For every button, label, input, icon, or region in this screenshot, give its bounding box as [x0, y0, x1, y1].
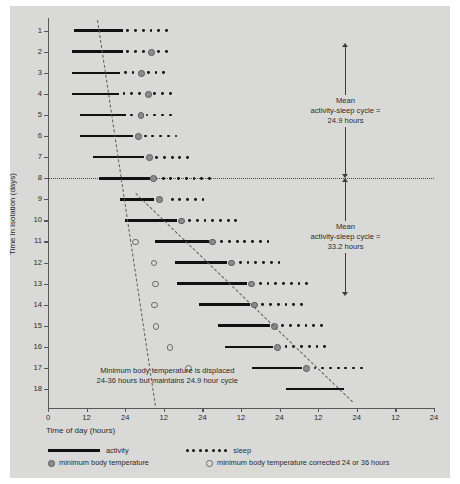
sleep-dot-day-11-5	[251, 240, 254, 243]
sleep-dot-day-8-7	[208, 177, 211, 180]
x-tick-3	[164, 408, 165, 412]
activity-bar-day-8	[99, 177, 150, 180]
x-tick-8	[357, 408, 358, 412]
activity-bar-day-11	[155, 240, 209, 243]
mean-cycle-upper-line1: Mean	[336, 96, 355, 105]
y-tick-label-13: 13	[20, 280, 42, 288]
y-tick-label-4: 4	[20, 90, 42, 98]
sleep-dot-day-8-2	[169, 177, 172, 180]
y-tick-11	[44, 241, 48, 242]
sleep-dot-day-14-1	[261, 303, 264, 306]
legend-item-activity: activity	[48, 446, 129, 455]
sleep-dot-day-4-5	[161, 92, 164, 95]
legend-item-mbt: minimum body temperature	[48, 458, 149, 467]
sleep-dot-day-4-2	[138, 92, 141, 95]
sleep-dot-day-6-5	[175, 135, 178, 138]
sleep-dot-day-3-1	[132, 71, 135, 74]
sleep-dot-day-9-5	[202, 198, 205, 201]
sleep-dot-day-14-5	[292, 303, 295, 306]
sleep-dot-day-9-2	[178, 198, 181, 201]
sleep-dot-day-10-2	[196, 219, 199, 222]
sleep-dot-day-2-4	[157, 50, 160, 53]
sleep-dot-day-7-2	[163, 156, 166, 159]
y-tick-label-8: 8	[20, 174, 42, 182]
sleep-dot-day-1-4	[157, 29, 160, 32]
activity-bar-day-3	[72, 72, 121, 75]
sleep-dot-day-8-4	[185, 177, 188, 180]
activity-bar-day-12	[175, 261, 227, 264]
legend-sleep-dot-1	[192, 449, 195, 452]
y-tick-label-6: 6	[20, 132, 42, 140]
x-tick-label-10: 24	[422, 414, 446, 422]
sleep-dot-day-14-6	[300, 303, 303, 306]
activity-bar-day-14	[199, 303, 250, 306]
sleep-dot-day-17-7	[360, 367, 363, 370]
x-tick-label-4: 24	[190, 414, 214, 422]
mbt-marker-day-8	[150, 175, 157, 182]
x-tick-2	[125, 408, 126, 412]
mbt-filled-circle-swatch	[48, 460, 56, 465]
x-tick-7	[318, 408, 319, 412]
sleep-dot-day-11-3	[236, 240, 239, 243]
mean-cycle-lower-line2: activity-sleep cycle =	[311, 232, 381, 241]
mean-cycle-lower-shaft-1	[345, 253, 346, 292]
x-tick-label-2: 24	[113, 414, 137, 422]
x-tick-4	[202, 408, 203, 412]
mean-cycle-lower-text: Meanactivity-sleep cycle =33.2 hours	[286, 222, 406, 252]
sleep-dot-day-17-4	[337, 367, 340, 370]
sleep-dot-day-17-5	[344, 367, 347, 370]
y-axis-line	[48, 18, 49, 408]
y-tick-label-12: 12	[20, 259, 42, 267]
mbt-marker-day-2	[148, 49, 155, 56]
legend-sleep-dot-5	[218, 449, 221, 452]
y-tick-15	[44, 326, 48, 327]
y-tick-label-5: 5	[20, 111, 42, 119]
sleep-dot-day-8-1	[162, 177, 165, 180]
mbt-marker-day-11	[209, 239, 216, 246]
sleep-dot-day-11-1	[220, 240, 223, 243]
mbt-marker-day-6	[135, 133, 142, 140]
activity-bar-day-6	[80, 135, 132, 138]
sleep-dot-day-13-6	[298, 282, 301, 285]
sleep-dot-day-13-3	[274, 282, 277, 285]
mean-cycle-upper-shaft-0	[345, 47, 346, 94]
sleep-dot-day-17-3	[329, 367, 332, 370]
activity-bar-day-2	[72, 50, 123, 53]
sleep-dot-day-8-3	[177, 177, 180, 180]
legend-sleep-dot-3	[205, 449, 208, 452]
y-tick-18	[44, 389, 48, 390]
x-tick-label-9: 12	[383, 414, 407, 422]
sleep-dot-day-5-0	[130, 114, 133, 117]
temperature-note-line1: Minimum body temperature is displaced	[100, 366, 234, 375]
y-tick-label-16: 16	[20, 343, 42, 351]
y-tick-13	[44, 284, 48, 285]
activity-line-swatch	[48, 449, 100, 452]
sleep-dot-day-17-6	[352, 367, 355, 370]
sleep-dot-day-16-6	[323, 345, 326, 348]
y-axis-title: Time in isolation (days)	[8, 173, 17, 255]
sleep-dot-day-11-2	[228, 240, 231, 243]
sleep-dot-day-6-3	[159, 135, 162, 138]
sleep-dot-day-9-3	[186, 198, 189, 201]
x-tick-label-7: 12	[306, 414, 330, 422]
mbt-corrected-marker-day-13	[152, 281, 159, 288]
sleep-dot-day-14-2	[269, 303, 272, 306]
sleep-dot-day-16-4	[308, 345, 311, 348]
y-tick-label-15: 15	[20, 322, 42, 330]
sleep-dot-day-10-3	[204, 219, 207, 222]
x-axis-title: Time of day (hours)	[46, 426, 115, 435]
sleep-dots-swatch	[186, 449, 227, 452]
sleep-dot-day-5-4	[161, 114, 164, 117]
legend-sleep-dot-4	[212, 449, 215, 452]
temperature-note: Minimum body temperature is displaced24-…	[67, 366, 267, 386]
mbt-marker-day-10	[178, 218, 185, 225]
sleep-dot-day-15-6	[320, 324, 323, 327]
sleep-dot-day-9-4	[194, 198, 197, 201]
sleep-dot-day-17-2	[321, 367, 324, 370]
mean-cycle-lower-line3: 33.2 hours	[328, 242, 364, 251]
mbt-corrected-marker-day-14	[151, 302, 158, 309]
mean-cycle-upper-text: Meanactivity-sleep cycle =24.9 hours	[286, 96, 406, 126]
sleep-dot-day-1-1	[134, 29, 137, 32]
mbt-corrected-marker-day-12	[151, 260, 158, 267]
sleep-dot-day-16-3	[300, 345, 303, 348]
